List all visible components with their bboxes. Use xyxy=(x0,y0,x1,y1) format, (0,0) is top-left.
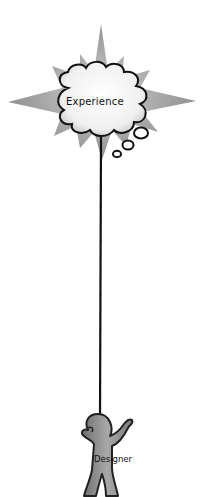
designer-label: Designer xyxy=(94,454,132,464)
experience-label: Experience xyxy=(66,96,124,107)
connector-line xyxy=(100,136,101,418)
diagram-canvas xyxy=(0,0,210,497)
